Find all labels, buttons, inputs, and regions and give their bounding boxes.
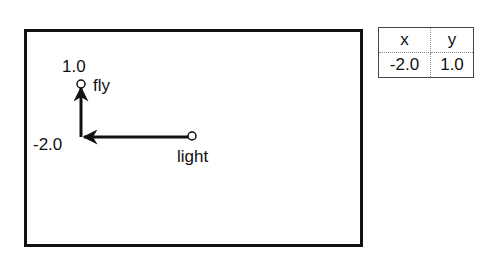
y-value-label: 1.0: [62, 58, 86, 75]
table-row: -2.0 1.0: [379, 53, 474, 78]
x-value-label: -2.0: [33, 136, 62, 153]
cell-x: -2.0: [379, 53, 431, 78]
light-point[interactable]: [188, 132, 196, 140]
fly-label: fly: [93, 77, 110, 94]
cell-y: 1.0: [431, 53, 474, 78]
values-table: x y -2.0 1.0: [378, 27, 474, 78]
table-header-row: x y: [379, 28, 474, 53]
header-y: y: [431, 28, 474, 53]
header-x: x: [379, 28, 431, 53]
fly-point[interactable]: [77, 80, 85, 88]
light-label: light: [177, 148, 208, 165]
